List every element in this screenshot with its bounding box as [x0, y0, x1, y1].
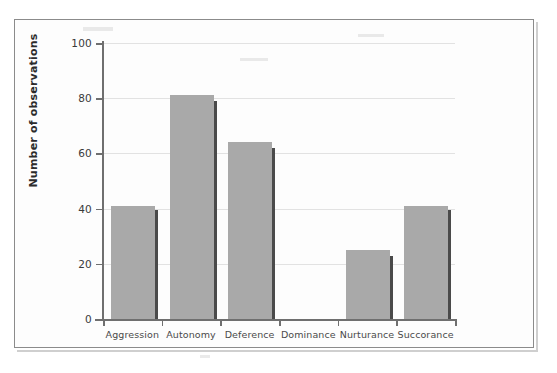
x-tick-1 [162, 319, 164, 326]
bar-chart: Number of observations [0, 0, 557, 373]
bar-shadow-aggression [155, 210, 158, 320]
x-label-dominance: Dominance [279, 329, 338, 340]
y-tick-label-60: 60 [32, 147, 92, 159]
bar-shadow-succorance [448, 210, 451, 320]
x-label-autonomy: Autonomy [162, 329, 221, 340]
bar-deference[interactable] [228, 142, 272, 319]
bar-shadow-autonomy [214, 101, 217, 319]
y-tick-100 [96, 43, 103, 45]
y-tick-40 [96, 209, 103, 211]
plot-area [103, 43, 455, 319]
bar-autonomy[interactable] [170, 95, 214, 319]
x-tick-6 [455, 319, 457, 326]
x-tick-4 [338, 319, 340, 326]
x-tick-3 [279, 319, 281, 326]
y-tick-label-40: 40 [32, 203, 92, 215]
y-tick-label-0: 0 [32, 313, 92, 325]
bar-aggression[interactable] [111, 206, 155, 319]
x-tick-2 [220, 319, 222, 326]
x-label-nurturance: Nurturance [338, 329, 397, 340]
x-tick-0 [103, 319, 105, 326]
y-tick-0 [96, 319, 103, 321]
chart-page: Number of observations [0, 0, 557, 373]
y-tick-label-20: 20 [32, 258, 92, 270]
bar-shadow-nurturance [390, 256, 393, 320]
bar-shadow-deference [272, 148, 275, 319]
y-tick-60 [96, 153, 103, 155]
x-axis-line [95, 319, 457, 321]
gridline-100 [103, 43, 455, 44]
bar-nurturance[interactable] [346, 250, 390, 319]
x-label-aggression: Aggression [103, 329, 162, 340]
y-axis-line [102, 41, 104, 321]
gridline-80 [103, 98, 455, 99]
y-axis-title: Number of observations [27, 31, 40, 191]
gridline-60 [103, 153, 455, 154]
x-label-deference: Deference [220, 329, 279, 340]
y-tick-20 [96, 264, 103, 266]
bar-succorance[interactable] [404, 206, 448, 319]
y-tick-label-100: 100 [32, 37, 92, 49]
y-tick-80 [96, 98, 103, 100]
x-label-succorance: Succorance [396, 329, 455, 340]
x-tick-5 [396, 319, 398, 326]
y-tick-label-80: 80 [32, 92, 92, 104]
